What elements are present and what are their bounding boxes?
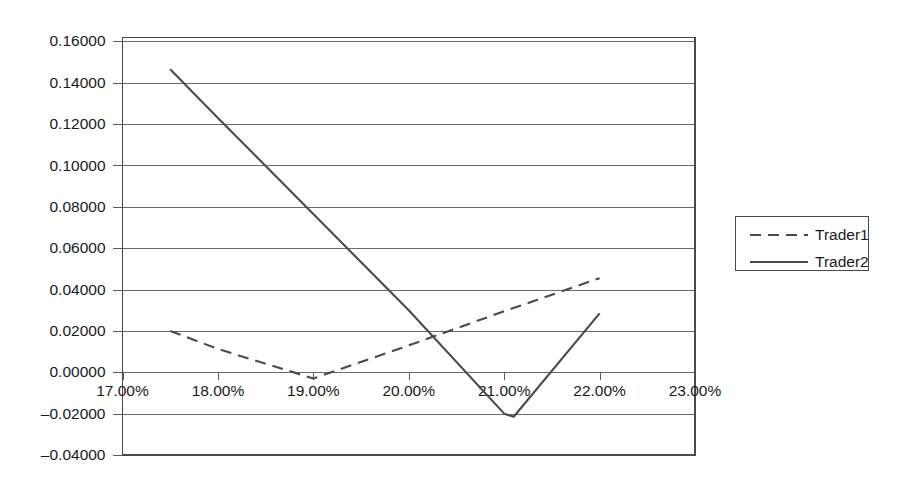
y-tick-label-2: 0.12000 [49, 115, 105, 132]
x-tick-label-1: 18.00% [192, 382, 245, 399]
x-tick-label-4: 21.00% [478, 382, 531, 399]
line-chart: 0.160000.140000.120000.100000.080000.060… [0, 0, 900, 487]
legend-label-trader1: Trader1 [815, 226, 869, 243]
y-tick-label-4: 0.08000 [49, 198, 105, 215]
x-tick-label-2: 19.00% [287, 382, 340, 399]
y-tick-label-3: 0.10000 [49, 157, 105, 174]
x-tick-label-0: 17.00% [96, 382, 149, 399]
y-tick-label-0: 0.16000 [49, 32, 105, 49]
x-tick-label-3: 20.00% [382, 382, 435, 399]
y-tick-label-9: –0.02000 [41, 405, 106, 422]
chart-canvas: 0.160000.140000.120000.100000.080000.060… [0, 0, 900, 487]
x-axis-tick-labels: 17.00%18.00%19.00%20.00%21.00%22.00%23.0… [96, 382, 721, 399]
y-tick-label-6: 0.04000 [49, 281, 105, 298]
series-line-trader1 [170, 278, 599, 378]
chart-legend: Trader1 Trader2 [736, 217, 869, 271]
x-tick-label-5: 22.00% [573, 382, 626, 399]
legend-label-trader2: Trader2 [815, 253, 869, 270]
y-tick-label-5: 0.06000 [49, 239, 105, 256]
y-tick-label-1: 0.14000 [49, 74, 105, 91]
series-line-trader2 [170, 69, 599, 416]
y-tick-label-8: 0.00000 [49, 363, 105, 380]
y-tick-label-10: –0.04000 [41, 446, 106, 463]
x-tick-label-6: 23.00% [669, 382, 722, 399]
y-tick-label-7: 0.02000 [49, 322, 105, 339]
